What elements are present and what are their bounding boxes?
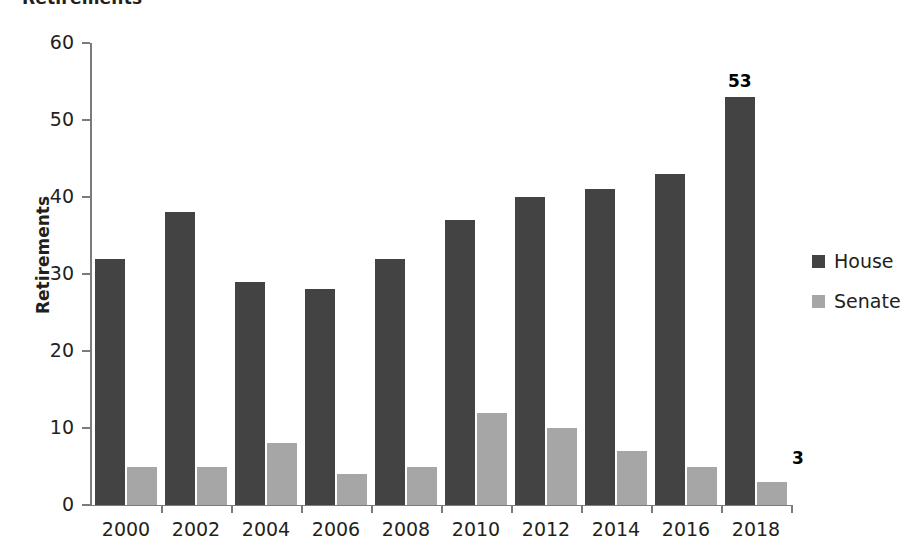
bar-senate-2010 [477,413,507,505]
bar-house-2006 [305,289,335,505]
bar-senate-2006 [337,474,367,505]
y-axis-tick-label: 10 [0,416,74,438]
y-axis-tick-label: 60 [0,31,74,53]
bar-house-2004 [235,282,265,505]
x-axis-tick-label: 2010 [436,518,516,540]
y-axis-tick [82,196,90,198]
bar-senate-2014 [617,451,647,505]
bar-house-2008 [375,259,405,505]
y-axis-tick-label: 0 [0,493,74,515]
x-axis-tick [511,505,513,513]
chart-legend: HouseSenate [812,252,912,332]
x-axis-tick-label: 2018 [716,518,796,540]
bar-chart-figure: Retirements Retirements 0102030405060 20… [0,0,914,552]
legend-label-house: House [834,250,894,272]
bar-senate-2016 [687,467,717,506]
y-axis-tick [82,504,90,506]
value-label-senate-2018: 3 [792,448,804,468]
x-axis-tick [371,505,373,513]
y-axis-tick [82,42,90,44]
legend-item-house[interactable]: House [812,252,912,270]
chart-title: Retirements [22,0,142,8]
x-axis-tick [231,505,233,513]
x-axis-tick-label: 2014 [576,518,656,540]
x-axis-tick [581,505,583,513]
bar-house-2014 [585,189,615,505]
bar-house-2018 [725,97,755,505]
y-axis-tick-label: 40 [0,185,74,207]
y-axis-tick [82,427,90,429]
y-axis-tick [82,273,90,275]
legend-swatch-house [812,255,825,268]
y-axis-tick-label: 30 [0,262,74,284]
y-axis-tick-label: 50 [0,108,74,130]
y-axis-tick-label: 20 [0,339,74,361]
bar-senate-2012 [547,428,577,505]
x-axis-tick [791,505,793,513]
legend-swatch-senate [812,295,825,308]
x-axis-tick-label: 2002 [156,518,236,540]
bar-senate-2000 [127,467,157,506]
bars-layer [91,43,791,505]
bar-senate-2002 [197,467,227,506]
x-axis-tick-label: 2008 [366,518,446,540]
x-axis-tick [301,505,303,513]
bar-house-2002 [165,212,195,505]
bar-senate-2008 [407,467,437,506]
x-axis-tick [651,505,653,513]
x-axis-tick-label: 2004 [226,518,306,540]
bar-house-2012 [515,197,545,505]
y-axis-tick [82,350,90,352]
y-axis-tick [82,119,90,121]
legend-item-senate[interactable]: Senate [812,292,912,310]
bar-house-2000 [95,259,125,505]
bar-senate-2018 [757,482,787,505]
value-label-house-2018: 53 [728,71,752,91]
x-axis-tick-label: 2016 [646,518,726,540]
legend-label-senate: Senate [834,290,901,312]
bar-senate-2004 [267,443,297,505]
x-axis-tick-label: 2000 [86,518,166,540]
x-axis-tick-label: 2006 [296,518,376,540]
x-axis-tick [441,505,443,513]
x-axis-tick-label: 2012 [506,518,586,540]
bar-house-2016 [655,174,685,505]
x-axis-tick [161,505,163,513]
x-axis-tick [721,505,723,513]
bar-house-2010 [445,220,475,505]
